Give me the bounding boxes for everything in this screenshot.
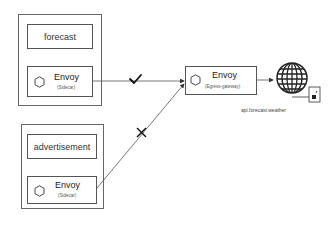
- cross-icon: [137, 128, 146, 137]
- check-icon: [130, 75, 141, 83]
- globe-icon: [277, 63, 307, 93]
- blocked-connection-line: [97, 84, 184, 188]
- external-host-label: api.forecast.weather: [241, 107, 286, 113]
